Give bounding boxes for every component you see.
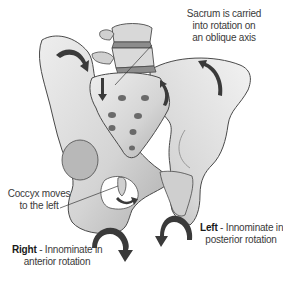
sacrum-label-line2: into rotation on bbox=[176, 20, 272, 32]
coccyx-label: Coccyx moves to the left bbox=[4, 188, 74, 212]
right-label-bold: Right bbox=[12, 244, 37, 255]
sacrum-label-line3: an oblique axis bbox=[176, 32, 272, 44]
left-label-rest: - Innominate in bbox=[218, 222, 283, 233]
lumbar-vertebrae bbox=[92, 24, 156, 75]
left-label-bold: Left bbox=[200, 222, 218, 233]
left-innominate-label: Left - Innominate in posterior rotation bbox=[200, 222, 282, 246]
right-innominate-label-line2: anterior rotation bbox=[12, 256, 102, 268]
right-label-rest: - Innominate in bbox=[37, 244, 103, 255]
left-innominate-label-line2: posterior rotation bbox=[200, 234, 282, 246]
coccyx-label-line1: Coccyx moves bbox=[4, 188, 74, 200]
acetabulum bbox=[62, 140, 98, 180]
coccyx-label-line2: to the left bbox=[4, 200, 74, 212]
pelvis-diagram: Sacrum is carried into rotation on an ob… bbox=[0, 0, 283, 281]
sacrum-label-line1: Sacrum is carried bbox=[176, 8, 272, 20]
right-innominate-label: Right - Innominate in anterior rotation bbox=[12, 244, 102, 268]
right-innominate-label-line1: Right - Innominate in bbox=[12, 244, 102, 256]
sacrum-label: Sacrum is carried into rotation on an ob… bbox=[176, 8, 272, 44]
left-innominate-label-line1: Left - Innominate in bbox=[200, 222, 282, 234]
